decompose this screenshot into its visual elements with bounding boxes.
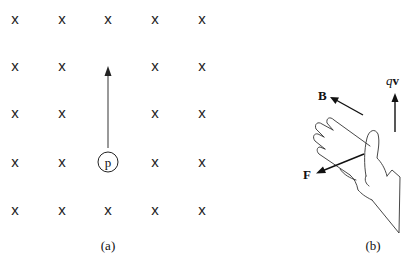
field-into-page-icon: x	[151, 10, 159, 27]
field-into-page-icon: x	[11, 104, 19, 121]
velocity-arrow	[105, 66, 112, 148]
field-into-page-icon: x	[104, 10, 112, 27]
field-into-page-icon: x	[151, 201, 159, 218]
label-qv: qv	[386, 73, 400, 88]
field-into-page-icon: x	[198, 201, 206, 218]
caption-a: (a)	[101, 238, 115, 253]
field-into-page-icon: x	[151, 153, 159, 170]
label-f: F	[303, 167, 311, 182]
qv-arrow	[392, 93, 399, 132]
field-into-page-icon: x	[104, 201, 112, 218]
field-into-page-icon: x	[198, 57, 206, 74]
field-into-page-icon: x	[198, 104, 206, 121]
field-into-page-icon: x	[58, 201, 66, 218]
magnetic-field-grid: xxxxxxxxxxxxxxxxxxxxxx	[11, 10, 206, 218]
right-hand-icon	[314, 118, 400, 233]
field-into-page-icon: x	[11, 201, 19, 218]
label-b: B	[318, 88, 327, 103]
diagram: xxxxxxxxxxxxxxxxxxxxxx p (a) B qv	[0, 0, 408, 271]
field-into-page-icon: x	[11, 153, 19, 170]
field-into-page-icon: x	[198, 10, 206, 27]
svg-text:p: p	[105, 155, 112, 170]
field-into-page-icon: x	[58, 153, 66, 170]
particle-p: p	[98, 152, 118, 172]
field-into-page-icon: x	[198, 153, 206, 170]
field-into-page-icon: x	[151, 57, 159, 74]
field-into-page-icon: x	[11, 10, 19, 27]
field-into-page-icon: x	[151, 104, 159, 121]
caption-b: (b)	[365, 238, 380, 253]
field-into-page-icon: x	[11, 57, 19, 74]
field-into-page-icon: x	[58, 10, 66, 27]
field-into-page-icon: x	[58, 57, 66, 74]
b-field-arrow	[330, 97, 363, 115]
field-into-page-icon: x	[58, 104, 66, 121]
